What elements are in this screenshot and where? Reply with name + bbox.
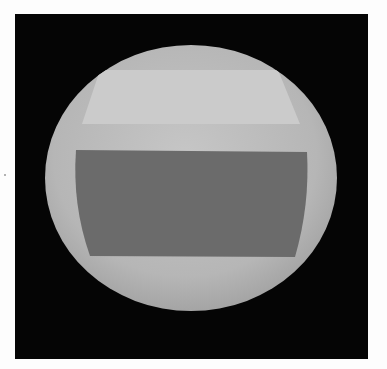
dark-band bbox=[75, 150, 307, 257]
light-band bbox=[82, 70, 300, 124]
sphere-scene bbox=[0, 0, 387, 369]
stray-mark bbox=[4, 174, 6, 176]
